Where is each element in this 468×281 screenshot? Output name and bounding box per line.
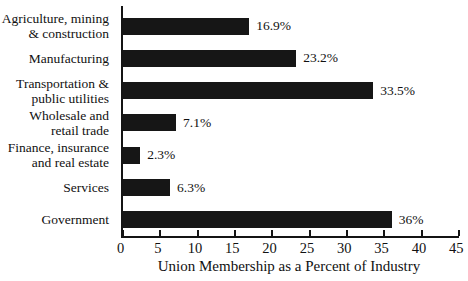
x-tick-label: 25 — [300, 240, 315, 257]
category-label: Services — [0, 171, 115, 203]
x-tick-mark — [346, 230, 348, 236]
bar — [123, 18, 249, 35]
bar-row: 23.2% — [123, 42, 459, 74]
x-tick-label: 0 — [117, 240, 124, 257]
category-axis-labels: Agriculture, mining & constructionManufa… — [0, 10, 115, 236]
x-tick-mark — [159, 230, 161, 236]
x-tick-label: 30 — [337, 240, 352, 257]
x-tick-mark — [197, 230, 199, 236]
x-tick-mark — [458, 230, 460, 236]
bar — [123, 211, 392, 228]
bar — [123, 82, 373, 99]
bar-row: 33.5% — [123, 75, 459, 107]
bar — [123, 114, 176, 131]
x-tick-label: 5 — [154, 240, 161, 257]
value-label: 6.3% — [177, 180, 205, 196]
x-tick-label: 15 — [225, 240, 240, 257]
x-tick-label: 45 — [449, 240, 464, 257]
bar-row: 7.1% — [123, 107, 459, 139]
bar-row: 6.3% — [123, 171, 459, 203]
x-tick-mark — [383, 230, 385, 236]
x-tick-label: 40 — [412, 240, 427, 257]
value-label: 2.3% — [147, 147, 175, 163]
union-membership-bar-chart: Agriculture, mining & constructionManufa… — [0, 0, 468, 281]
category-label: Transportation & public utilities — [0, 75, 115, 107]
category-label: Finance, insurance and real estate — [0, 139, 115, 171]
bar-row: 2.3% — [123, 139, 459, 171]
bar — [123, 50, 296, 67]
bar-row: 36% — [123, 204, 459, 236]
x-tick-labels: 051015202530354045 — [121, 240, 457, 257]
x-tick-mark — [122, 230, 124, 236]
category-label: Government — [0, 204, 115, 236]
x-axis-title: Union Membership as a Percent of Industr… — [121, 258, 457, 275]
category-label: Wholesale and retail trade — [0, 107, 115, 139]
x-tick-mark — [234, 230, 236, 236]
bar — [123, 179, 170, 196]
x-tick-mark — [309, 230, 311, 236]
category-label: Agriculture, mining & construction — [0, 10, 115, 42]
value-label: 7.1% — [183, 115, 211, 131]
x-tick-mark — [271, 230, 273, 236]
value-label: 23.2% — [303, 50, 338, 66]
bar-rows: 16.9%23.2%33.5%7.1%2.3%6.3%36% — [123, 10, 459, 236]
plot-area: 16.9%23.2%33.5%7.1%2.3%6.3%36% — [121, 6, 459, 238]
x-tick-label: 20 — [262, 240, 277, 257]
bar — [123, 147, 140, 164]
value-label: 33.5% — [380, 83, 415, 99]
x-tick-mark — [421, 230, 423, 236]
x-tick-label: 35 — [374, 240, 389, 257]
x-tick-label: 10 — [188, 240, 203, 257]
value-label: 36% — [399, 212, 424, 228]
value-label: 16.9% — [256, 18, 291, 34]
bar-row: 16.9% — [123, 10, 459, 42]
category-label: Manufacturing — [0, 42, 115, 74]
